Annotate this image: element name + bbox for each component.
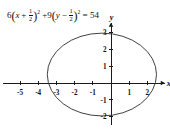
y-axis-tick-label: -2 xyxy=(101,113,107,121)
x-axis-tick-label: -1 xyxy=(90,89,96,97)
x-axis-tick-label: -5 xyxy=(17,89,23,97)
y-axis-tick-label: 1 xyxy=(103,63,107,71)
ellipse-graph-figure: 6(x + 12)2 +9(y − 12)2 = 54 -5-4-3-2-112… xyxy=(0,0,170,138)
x-axis-tick-label: 1 xyxy=(127,89,131,97)
y-axis-arrowhead xyxy=(109,23,114,27)
x-axis-label: x xyxy=(166,79,170,88)
x-axis-tick-label: 2 xyxy=(146,89,150,97)
tick-label-group: -5-4-3-2-112321-1-2 xyxy=(17,29,150,122)
y-axis-label: y xyxy=(109,13,114,22)
axis-label-group: xy xyxy=(109,13,170,88)
x-axis-tick-label: -4 xyxy=(35,89,41,97)
x-axis-tick-label: -2 xyxy=(72,89,78,97)
y-axis-tick-label: 3 xyxy=(103,29,107,37)
y-axis-tick-label: -1 xyxy=(101,97,107,105)
x-axis-tick-label: -3 xyxy=(53,89,59,97)
axis-group xyxy=(3,23,165,125)
y-axis-tick-label: 2 xyxy=(103,46,107,54)
coordinate-plane: -5-4-3-2-112321-1-2 xy xyxy=(0,0,170,138)
x-axis-arrowhead xyxy=(161,81,165,86)
tick-mark-group xyxy=(20,32,147,117)
